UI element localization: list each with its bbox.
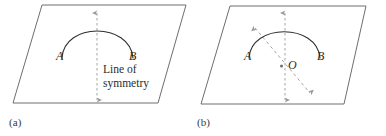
panel-caption-b: (b) (197, 116, 210, 128)
diagonal-symmetry-axis-b (255, 28, 310, 93)
line-of-symmetry-annotation-line1: Line of (103, 62, 137, 76)
point-label-b-panel-b: B (317, 49, 324, 64)
line-of-symmetry-annotation-line2: symmetry (103, 76, 149, 90)
panel-caption-a: (a) (9, 116, 22, 128)
parallelogram-plane-b (201, 6, 366, 104)
panel-b (201, 6, 366, 104)
geometry-figure: A B Line of symmetry (a) A B O (b) (0, 0, 386, 136)
panel-a (13, 5, 186, 103)
point-label-a-panel-b: A (244, 49, 251, 64)
figure-canvas (0, 0, 386, 136)
point-label-a-panel-a: A (56, 49, 63, 64)
center-point-label-o: O (288, 58, 297, 73)
center-point-o-dot (280, 65, 283, 68)
parallelogram-plane-a (13, 5, 186, 103)
